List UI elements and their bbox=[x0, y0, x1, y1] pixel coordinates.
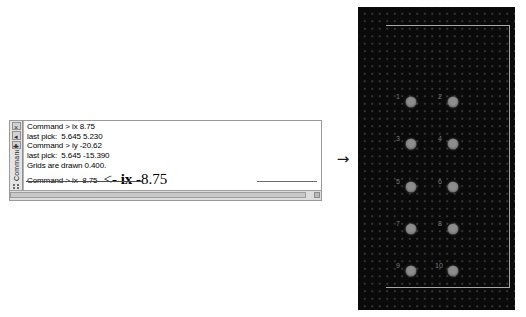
hscroll-thumb[interactable] bbox=[10, 192, 306, 198]
command-window-body: × ◂ ✚ Command Command > ix 8.75 last pic… bbox=[10, 121, 321, 190]
console-output-area[interactable]: Command > ix 8.75 last pick: 5.645 5.230… bbox=[23, 121, 321, 190]
close-icon[interactable]: × bbox=[12, 122, 21, 130]
annotation-value: -8.75 bbox=[132, 171, 167, 187]
pcb-pad-label: 5 bbox=[396, 178, 400, 185]
pcb-pad[interactable] bbox=[406, 97, 417, 108]
dock-title-label: Command bbox=[13, 150, 20, 183]
console-line: last pick: 5.645 -15.390 bbox=[27, 151, 321, 161]
pcb-pad-label: 8 bbox=[438, 220, 442, 227]
dock-grip-icon[interactable] bbox=[12, 183, 21, 189]
pcb-pad[interactable] bbox=[448, 139, 459, 150]
pcb-editor-panel[interactable]: 12345678910 bbox=[358, 7, 515, 310]
annotation-callout: <- ix -8.75 bbox=[103, 172, 167, 187]
board-outline bbox=[386, 25, 510, 288]
annotation-command: ix bbox=[121, 171, 133, 187]
pcb-pad-label: 3 bbox=[396, 135, 400, 142]
pcb-pad[interactable] bbox=[448, 224, 459, 235]
pcb-pad-label: 1 bbox=[396, 93, 400, 100]
annotation-arrow: <- bbox=[103, 171, 120, 187]
pcb-pad[interactable] bbox=[448, 97, 459, 108]
pcb-pad[interactable] bbox=[406, 266, 417, 277]
hscroll-right-button[interactable] bbox=[314, 192, 320, 198]
input-underline bbox=[26, 181, 142, 182]
pcb-pad[interactable] bbox=[406, 182, 417, 193]
collapse-icon[interactable]: ◂ bbox=[12, 131, 21, 139]
pcb-pad-label: 9 bbox=[396, 262, 400, 269]
pcb-pad-label: 4 bbox=[438, 135, 442, 142]
console-line: Grids are drawn 0.400. bbox=[27, 161, 321, 171]
pcb-pad-label: 6 bbox=[438, 178, 442, 185]
flow-arrow-icon: → bbox=[330, 150, 356, 168]
console-line: Command > ix 8.75 bbox=[27, 122, 321, 132]
console-line: last pick: 5.645 5.230 bbox=[27, 132, 321, 142]
right-rule bbox=[257, 181, 317, 182]
pcb-pad-label: 10 bbox=[435, 262, 443, 269]
horizontal-scrollbar[interactable] bbox=[10, 190, 321, 200]
pcb-pad[interactable] bbox=[448, 266, 459, 277]
console-line: Command > iy -20.62 bbox=[27, 141, 321, 151]
pin-icon[interactable]: ✚ bbox=[12, 141, 21, 149]
pcb-pad[interactable] bbox=[448, 182, 459, 193]
pcb-pad-label: 2 bbox=[438, 93, 442, 100]
pcb-pad-label: 7 bbox=[396, 220, 400, 227]
console-input-row: Command > ix -8.75 <- ix -8.75 bbox=[27, 171, 321, 186]
pcb-pad[interactable] bbox=[406, 224, 417, 235]
pcb-pad[interactable] bbox=[406, 139, 417, 150]
command-dock-strip[interactable]: × ◂ ✚ Command bbox=[10, 121, 23, 190]
command-console-window[interactable]: × ◂ ✚ Command Command > ix 8.75 last pic… bbox=[9, 120, 322, 201]
